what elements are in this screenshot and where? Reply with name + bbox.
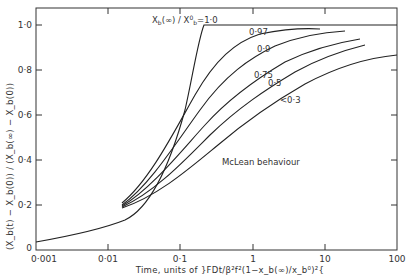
- svg-text:Xb(∞) / X0b=1·0: Xb(∞) / X0b=1·0: [152, 14, 218, 26]
- y-tick-label: 0·2: [18, 200, 32, 210]
- label-0-5: 0·5: [268, 78, 282, 88]
- mclean-behaviour-label: McLean behaviour: [222, 157, 300, 167]
- legend-label: Xb(∞) / X0b=1·0: [152, 14, 218, 26]
- y-tick-label: 0·8: [18, 65, 33, 75]
- x-tick-label: 1: [250, 254, 256, 264]
- x-axis: 0·001 0·01 0·1 1 10 100: [31, 8, 406, 264]
- x-tick-label: 0·001: [31, 254, 57, 264]
- y-tick-label: 0·4: [18, 155, 33, 165]
- series-0-75: [122, 39, 360, 206]
- x-tick-label: 0·1: [173, 254, 187, 264]
- y-axis: 1·0 0·8 0·6 0·4 0·2 0: [18, 20, 397, 253]
- series-1-0: [36, 25, 397, 242]
- series-0-97: [122, 29, 320, 203]
- x-tick-label: 0·01: [98, 254, 118, 264]
- series-group: [36, 25, 397, 242]
- x-tick-label: 10: [319, 254, 331, 264]
- y-axis-title: (X_b(t) − X_b(0)) / (X_b(∞) − X_b(0)): [5, 83, 15, 250]
- chart: 1·0 0·8 0·6 0·4 0·2 0 0·001 0·01 0·1 1 1…: [0, 0, 413, 276]
- label-0-3: <0·3: [280, 95, 301, 105]
- label-0-97: 0·97: [249, 27, 268, 37]
- x-axis-title: Time, units of }FDt/β²f²(1−x_b(∞)/x_b⁰)²…: [135, 265, 325, 275]
- y-tick-label: 0: [26, 243, 32, 253]
- x-tick-label: 100: [388, 254, 405, 264]
- y-tick-label: 0·6: [18, 110, 33, 120]
- label-0-9: 0·9: [257, 44, 271, 54]
- y-tick-label: 1·0: [18, 20, 33, 30]
